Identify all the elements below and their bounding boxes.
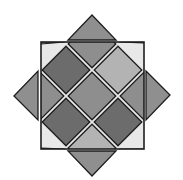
- triangle-bottom: [68, 151, 116, 176]
- outer-square: [16, 20, 168, 172]
- star-square-diagram: [0, 0, 183, 180]
- triangle-left: [14, 71, 38, 120]
- triangle-top: [68, 15, 116, 40]
- triangle-right: [146, 71, 170, 120]
